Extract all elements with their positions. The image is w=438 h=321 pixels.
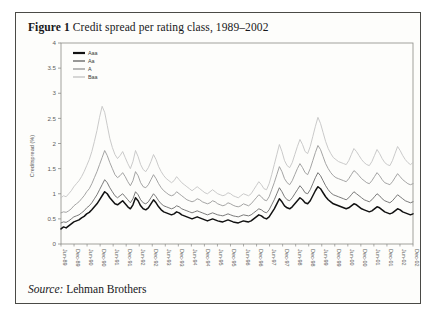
y-axis-ticks: 00.511.522.533.54 (47, 39, 61, 247)
chart-plot: 00.511.522.533.54 Creditspread (%) Jun-8… (16, 13, 422, 305)
x-tick-label: Dec-98 (310, 249, 316, 266)
y-tick-label: 1 (53, 190, 57, 197)
x-tick-label: Jun-89 (62, 249, 68, 265)
y-tick-label: 3.5 (47, 64, 56, 71)
x-tick-label: Jun-99 (323, 249, 329, 265)
y-tick-label: 0.5 (47, 215, 56, 222)
x-tick-label: Dec-91 (127, 249, 133, 266)
series-line-aa (61, 173, 413, 223)
y-tick-label: 4 (53, 39, 57, 46)
legend-label-aa: Aa (88, 58, 95, 64)
figure-container: Figure 1 Credit spread per rating class,… (15, 12, 421, 304)
y-tick-label: 1.5 (47, 165, 56, 172)
x-tick-label: Jun-92 (140, 249, 146, 265)
y-tick-label: 2 (53, 140, 57, 147)
x-tick-label: Dec-89 (75, 249, 81, 266)
x-tick-label: Jun-90 (88, 249, 94, 265)
x-axis-ticks: Jun-89Dec-89Jun-90Dec-90Jun-91Dec-91Jun-… (61, 244, 420, 266)
x-tick-label: Dec-97 (284, 249, 290, 266)
chart-legend: AaaAaABaa (67, 45, 109, 80)
y-tick-label: 2.5 (47, 115, 56, 122)
y-tick-label: 3 (53, 89, 57, 96)
x-tick-label: Jun-02 (401, 249, 407, 265)
series-line-baa (61, 106, 413, 197)
series-lines (61, 106, 413, 229)
x-tick-label: Dec-90 (101, 249, 107, 266)
y-axis-label: Creditspread (%) (29, 135, 35, 177)
y-tick-label: 0 (53, 240, 57, 247)
x-tick-label: Jun-96 (245, 249, 251, 265)
plot-frame (61, 43, 413, 244)
x-tick-label: Jun-01 (375, 249, 381, 265)
x-tick-label: Jun-98 (297, 249, 303, 265)
legend-label-aaa: Aaa (88, 50, 98, 56)
x-tick-label: Dec-02 (414, 249, 420, 266)
source-name: Lehman Brothers (66, 283, 146, 295)
x-tick-label: Jun-93 (166, 249, 172, 265)
x-tick-label: Dec-96 (258, 249, 264, 266)
legend-label-baa: Baa (88, 74, 98, 80)
x-tick-label: Jun-91 (114, 249, 120, 265)
series-line-aaa (61, 187, 413, 229)
x-tick-label: Dec-95 (231, 249, 237, 266)
chart-svg: 00.511.522.533.54 Creditspread (%) Jun-8… (16, 13, 422, 305)
source-note: Source: Lehman Brothers (28, 283, 146, 295)
x-tick-label: Jun-94 (192, 249, 198, 265)
x-tick-label: Dec-00 (362, 249, 368, 266)
legend-label-a: A (88, 66, 92, 72)
x-tick-label: Jun-95 (218, 249, 224, 265)
x-tick-label: Dec-99 (336, 249, 342, 266)
source-word: Source: (28, 283, 63, 295)
x-tick-label: Dec-94 (205, 249, 211, 266)
x-tick-label: Dec-92 (153, 249, 159, 266)
x-tick-label: Dec-01 (388, 249, 394, 266)
x-tick-label: Dec-93 (179, 249, 185, 266)
x-tick-label: Jun-97 (271, 249, 277, 265)
x-tick-label: Jun-00 (349, 249, 355, 265)
